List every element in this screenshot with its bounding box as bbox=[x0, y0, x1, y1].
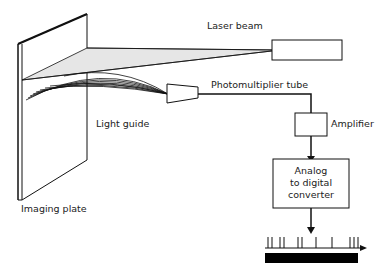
arrow-head-icon bbox=[307, 227, 315, 234]
label-photomultiplier-tube: Photomultiplier tube bbox=[211, 79, 308, 90]
signal-bar bbox=[265, 253, 358, 263]
signal-arrow-icon bbox=[360, 245, 367, 251]
label-amplifier: Amplifier bbox=[331, 118, 374, 129]
digital-signal bbox=[265, 237, 360, 248]
label-light-guide: Light guide bbox=[96, 118, 149, 129]
label-adc-line3: converter bbox=[288, 189, 334, 200]
label-adc-line2: to digital bbox=[290, 177, 332, 188]
label-laser-beam: Laser beam bbox=[207, 20, 263, 31]
imaging-plate bbox=[18, 14, 87, 200]
diagram-canvas: Laser beam Photomultiplier tube Light gu… bbox=[0, 0, 387, 274]
label-adc-line1: Analog bbox=[295, 165, 328, 176]
amplifier-box bbox=[295, 113, 327, 136]
laser-source-box bbox=[272, 40, 342, 60]
photomultiplier-tube bbox=[167, 84, 198, 103]
label-imaging-plate: Imaging plate bbox=[21, 203, 87, 214]
